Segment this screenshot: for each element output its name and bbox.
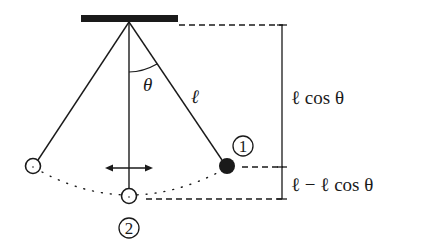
ceiling-support-bar (81, 15, 178, 22)
position-1-label: 1 (239, 137, 248, 156)
height-lower-label: ℓ − ℓ cos θ (291, 174, 373, 195)
left-string (38, 22, 129, 160)
angle-arc (129, 64, 157, 72)
bottom-bob-2 (122, 189, 137, 204)
bottom-bob-dot (128, 196, 130, 198)
right-bob-1 (219, 158, 235, 174)
position-1-marker: 1 (233, 136, 253, 156)
length-label: ℓ (191, 86, 199, 107)
position-2-label: 2 (125, 219, 134, 238)
pendulum-diagram: θ ℓ ℓ cos θ ℓ − ℓ cos θ 1 2 (0, 0, 426, 252)
height-upper-label: ℓ cos θ (291, 87, 344, 108)
left-bob-dot (32, 166, 34, 168)
position-2-marker: 2 (119, 218, 139, 238)
angle-label: θ (143, 74, 152, 95)
left-extreme-bob (26, 159, 41, 174)
